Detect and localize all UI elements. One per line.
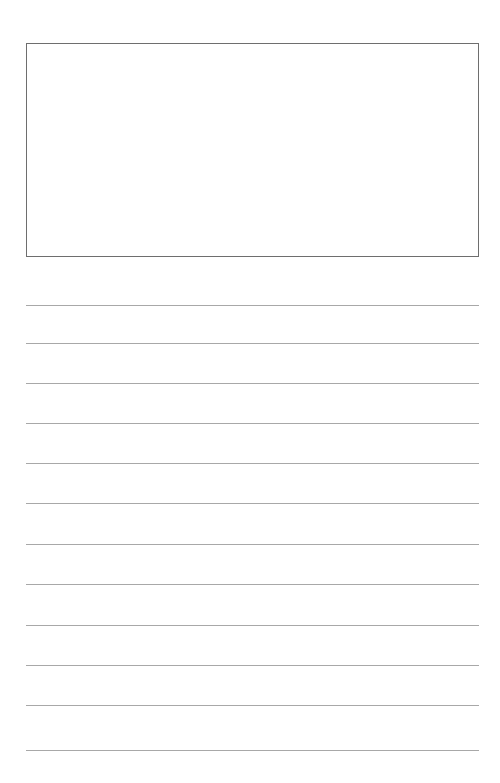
ruled-line (26, 705, 479, 706)
ruled-line (26, 544, 479, 545)
ruled-line (26, 463, 479, 464)
ruled-line (26, 750, 479, 751)
ruled-line (26, 665, 479, 666)
drawing-box (26, 43, 479, 257)
ruled-line (26, 625, 479, 626)
ruled-line (26, 423, 479, 424)
ruled-line (26, 503, 479, 504)
ruled-line (26, 305, 479, 306)
ruled-line (26, 343, 479, 344)
ruled-line (26, 584, 479, 585)
ruled-line (26, 383, 479, 384)
